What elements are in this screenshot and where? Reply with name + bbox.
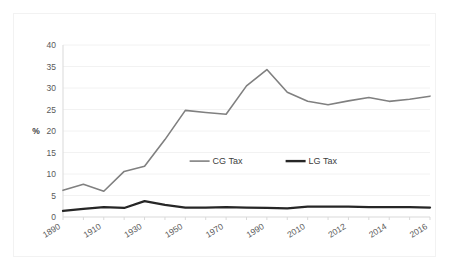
x-axis-tick-label: 1970 bbox=[204, 221, 226, 240]
x-axis-tick-label: 1910 bbox=[81, 221, 103, 240]
x-axis-tick-label: 2014 bbox=[367, 221, 389, 240]
x-axis-tick-label: 1990 bbox=[245, 221, 267, 240]
x-axis-tick-label: 2010 bbox=[285, 221, 307, 240]
y-gridlines bbox=[63, 45, 430, 196]
x-axis-tick-label: 2016 bbox=[408, 221, 430, 240]
y-axis-tick-label: 10 bbox=[47, 169, 57, 179]
y-axis-tick-label: 30 bbox=[47, 83, 57, 93]
y-axis-tick-label: 5 bbox=[51, 191, 56, 201]
y-axis-tick-label: 0 bbox=[51, 212, 56, 222]
x-axis-ticks: 1890191019301950197019902010201220142016 bbox=[41, 217, 430, 240]
series-line-lg-tax bbox=[63, 201, 430, 211]
y-axis-tick-label: 25 bbox=[47, 105, 57, 115]
x-axis-tick-label: 1930 bbox=[122, 221, 144, 240]
y-axis-tick-label: 40 bbox=[47, 40, 57, 50]
legend-item-cg-tax[interactable]: CG Tax bbox=[190, 156, 243, 166]
chart-figure: 0510152025303540%18901910193019501970199… bbox=[13, 13, 436, 257]
y-axis-tick-label: 20 bbox=[47, 126, 57, 136]
y-axis-title: % bbox=[32, 126, 40, 136]
line-chart-plot: 0510152025303540%18901910193019501970199… bbox=[14, 14, 435, 256]
x-axis-tick-label: 1890 bbox=[41, 221, 63, 240]
y-axis-tick-label: 15 bbox=[47, 148, 57, 158]
x-axis-tick-label: 1950 bbox=[163, 221, 185, 240]
legend-item-lg-tax[interactable]: LG Tax bbox=[286, 156, 338, 166]
x-axis-tick-label: 2012 bbox=[326, 221, 348, 240]
y-axis-tick-label: 35 bbox=[47, 62, 57, 72]
legend-label: CG Tax bbox=[213, 156, 243, 166]
legend-label: LG Tax bbox=[309, 156, 338, 166]
